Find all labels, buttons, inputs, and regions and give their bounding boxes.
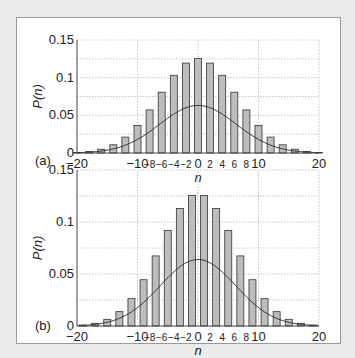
x-tick-label: 8 bbox=[244, 159, 250, 170]
x-axis-label: n bbox=[194, 343, 201, 358]
y-axis-label: P(n) bbox=[30, 236, 45, 261]
x-tick-label: 2 bbox=[207, 159, 213, 170]
x-tick-label: −8 bbox=[144, 332, 156, 343]
plot-b: 00.050.10.15−20−10−8−6−4−2024681020nP(n)… bbox=[30, 162, 326, 358]
x-tick-label: −6 bbox=[156, 159, 168, 170]
grid bbox=[77, 170, 319, 326]
x-tick-label: −4 bbox=[168, 159, 180, 170]
panel-label: (b) bbox=[35, 318, 51, 333]
y-tick-label: 0.05 bbox=[49, 266, 74, 281]
x-tick-label: 0 bbox=[194, 329, 201, 344]
plot-a: 00.050.10.15−20−10−8−6−4−2024681020nP(n)… bbox=[30, 32, 326, 185]
x-tick-label: −20 bbox=[66, 329, 88, 344]
x-tick-label: 8 bbox=[244, 332, 250, 343]
bars bbox=[80, 196, 317, 326]
x-tick-label: 20 bbox=[312, 329, 326, 344]
y-tick-label: 0.1 bbox=[56, 70, 74, 85]
x-tick-label: −8 bbox=[144, 159, 156, 170]
y-tick-label: 0.15 bbox=[49, 162, 74, 177]
x-tick-label: 10 bbox=[251, 329, 265, 344]
x-tick-label: −6 bbox=[156, 332, 168, 343]
y-tick-label: 0.15 bbox=[49, 32, 74, 47]
y-tick-label: 0.1 bbox=[56, 214, 74, 229]
x-tick-label: 4 bbox=[219, 159, 225, 170]
x-tick-label: −4 bbox=[168, 332, 180, 343]
x-tick-label: 6 bbox=[232, 332, 238, 343]
x-tick-label: 4 bbox=[219, 332, 225, 343]
x-tick-label: 0 bbox=[194, 156, 201, 171]
x-tick-label: 2 bbox=[207, 332, 213, 343]
y-tick-label: 0.05 bbox=[49, 107, 74, 122]
x-tick-label: 20 bbox=[312, 156, 326, 171]
y-axis-label: P(n) bbox=[30, 84, 45, 109]
x-tick-label: 6 bbox=[232, 159, 238, 170]
x-tick-label: −2 bbox=[180, 332, 192, 343]
x-tick-label: 10 bbox=[251, 156, 265, 171]
figure-canvas: 00.050.10.15−20−10−8−6−4−2024681020nP(n)… bbox=[0, 0, 355, 358]
x-tick-label: −2 bbox=[180, 159, 192, 170]
